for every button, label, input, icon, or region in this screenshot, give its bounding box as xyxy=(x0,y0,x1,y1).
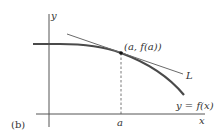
x-axis-label: x xyxy=(199,115,205,126)
tangent-line-diagram: y x (a, f(a)) L y = f(x) a (b) xyxy=(0,0,215,135)
y-axis-label: y xyxy=(50,10,57,21)
tick-label-a: a xyxy=(117,117,123,128)
tangent-line-L xyxy=(67,34,183,74)
point-label: (a, f(a)) xyxy=(124,41,162,52)
panel-label: (b) xyxy=(11,119,25,130)
curve-label: y = f(x) xyxy=(175,100,214,111)
tangent-point xyxy=(119,51,123,55)
tangent-label: L xyxy=(185,70,193,81)
